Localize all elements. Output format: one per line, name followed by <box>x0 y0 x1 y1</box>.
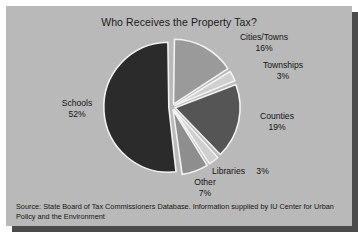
screenshot-root: Who Receives the Property Tax? Schools 5… <box>0 0 358 232</box>
slice-label-schools-value: 52% <box>44 109 110 120</box>
slice-label-counties: Counties 19% <box>247 111 307 132</box>
pie-slice-schools <box>104 42 176 172</box>
slice-label-townships: Townships 3% <box>250 60 316 81</box>
chart-panel: Who Receives the Property Tax? Schools 5… <box>6 6 352 226</box>
source-note: Source: State Board of Tax Commissioners… <box>16 202 346 221</box>
slice-label-townships-value: 3% <box>250 71 316 82</box>
slice-label-cities-value: 16% <box>228 43 300 54</box>
slice-label-other-name: Other <box>194 177 216 187</box>
slice-label-counties-name: Counties <box>260 111 294 121</box>
slice-label-townships-name: Townships <box>263 60 303 70</box>
slice-label-other-value: 7% <box>182 188 228 199</box>
slice-label-other: Other 7% <box>182 177 228 198</box>
chart-panel-inner: Who Receives the Property Tax? Schools 5… <box>6 6 352 226</box>
slice-label-libraries: Libraries 3% <box>212 166 269 177</box>
slice-label-counties-value: 19% <box>247 122 307 133</box>
slice-label-cities: Cities/Towns 16% <box>228 32 300 53</box>
slice-label-cities-name: Cities/Towns <box>240 32 288 42</box>
slice-label-schools: Schools 52% <box>44 98 110 119</box>
pie-chart: Schools 52% Cities/Towns 16% Townships 3… <box>6 6 352 196</box>
slice-label-libraries-value: 3% <box>256 166 268 176</box>
slice-label-schools-name: Schools <box>62 98 93 108</box>
slice-label-libraries-name: Libraries <box>212 166 245 176</box>
